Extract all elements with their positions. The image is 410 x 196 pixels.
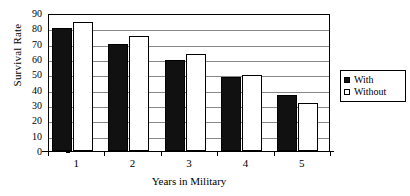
hollow-square-swatch-icon [344,89,350,95]
x-axis-tick-mark [104,152,105,156]
x-axis-tick-label: 4 [233,157,257,169]
x-axis-tick-mark [330,152,331,156]
bar-without-year-2 [129,36,149,151]
bar-without-year-4 [242,75,262,151]
y-axis-tick-label: 0 [22,147,42,157]
bar-without-year-5 [298,103,318,151]
filled-square-swatch-icon [344,77,350,83]
y-axis-tick-label: 30 [22,101,42,111]
x-axis-line [42,151,334,152]
y-axis-tick-mark [66,152,70,153]
x-axis-tick-label: 1 [64,157,88,169]
bar-without-year-3 [186,54,206,151]
x-axis-tick-mark [217,152,218,156]
y-axis-tick-label: 60 [22,55,42,65]
bar-group [277,15,318,151]
y-axis-tick-labels: 0102030405060708090 [22,10,42,152]
legend-label: With [354,74,402,86]
y-axis-tick-label: 90 [22,9,42,19]
bar-with-year-2 [108,44,128,151]
plot-area [48,14,330,152]
x-axis-tick-mark [274,152,275,156]
x-axis-tick-label: 2 [121,157,145,169]
legend-entry-with[interactable]: With [344,74,402,86]
bar-with-year-4 [221,77,241,151]
x-axis-tick-mark [161,152,162,156]
bar-group [108,15,149,151]
bar-group [52,15,93,151]
bars-layer [49,15,329,151]
chart-legend: WithWithout [340,70,406,102]
survival-rate-bar-chart: Survival Rate 0102030405060708090 12345 … [0,0,410,196]
y-axis-tick-label: 80 [22,24,42,34]
y-axis-tick-label: 20 [22,116,42,126]
x-axis-title: Years in Military [48,175,330,187]
bar-with-year-5 [277,95,297,151]
x-axis-tick-mark [48,152,49,156]
bar-without-year-1 [73,22,93,151]
y-axis-tick-label: 50 [22,70,42,80]
bar-with-year-3 [165,60,185,151]
bar-group [165,15,206,151]
y-axis-tick-label: 70 [22,40,42,50]
bar-group [221,15,262,151]
legend-entry-without[interactable]: Without [344,86,402,98]
x-axis-tick-label: 3 [177,157,201,169]
y-axis-tick-label: 40 [22,86,42,96]
x-axis-tick-label: 5 [290,157,314,169]
y-axis-tick-label: 10 [22,132,42,142]
bar-with-year-1 [52,28,72,151]
legend-label: Without [354,86,402,98]
